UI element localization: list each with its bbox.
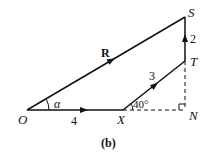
angle-arc-alpha — [46, 99, 49, 110]
vector-label-r: R — [101, 46, 110, 60]
arrowhead-xt — [150, 83, 158, 90]
angle-label-40: 40° — [133, 98, 148, 110]
point-label-s: S — [188, 5, 195, 20]
right-angle-mark — [179, 104, 185, 110]
arrowhead-ox — [80, 107, 88, 113]
point-label-t: T — [190, 54, 198, 69]
vector-diagram: O X N T S 4 3 2 R α 40° (b) — [0, 0, 212, 160]
angle-label-alpha: α — [54, 97, 61, 111]
vector-label-2: 2 — [190, 32, 196, 46]
vector-resultant-r — [27, 17, 185, 110]
diagram-svg: O X N T S 4 3 2 R α 40° (b) — [0, 0, 212, 160]
vector-label-3: 3 — [149, 69, 155, 83]
figure-caption: (b) — [101, 136, 116, 150]
point-label-n: N — [188, 108, 199, 123]
point-label-x: X — [116, 112, 126, 127]
vector-label-4: 4 — [71, 114, 77, 128]
point-label-o: O — [18, 112, 28, 127]
arrowhead-ts — [182, 34, 188, 42]
